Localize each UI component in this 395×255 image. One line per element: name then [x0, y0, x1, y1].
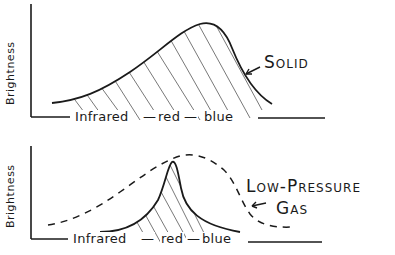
solid-x-label-infrared: Infrared: [74, 110, 130, 124]
spectrum-diagram: Brightness Infrared — red — blue Solid B…: [0, 0, 395, 255]
solid-hatching: [60, 18, 272, 120]
gas-y-axis-label: Brightness: [4, 164, 17, 228]
solid-y-axis-label: Brightness: [4, 41, 17, 105]
diagram-drawing: [0, 0, 395, 255]
gas-arrow: [252, 202, 266, 208]
gas-x-label-infrared: Infrared: [72, 232, 128, 246]
solid-x-label-blue: blue: [203, 110, 234, 124]
solid-arrow: [246, 67, 260, 74]
gas-x-label-red: red: [160, 232, 184, 246]
solid-x-label-red: red: [157, 110, 181, 124]
solid-x-sep-2: —: [183, 110, 198, 124]
gas-x-sep-1: —: [140, 232, 155, 246]
solid-x-sep-1: —: [142, 110, 157, 124]
solid-curve-label: Solid: [264, 52, 309, 72]
gas-curve-label-line1: Low-Pressure: [246, 176, 361, 196]
gas-curve-label-line2: Gas: [276, 198, 308, 218]
gas-peak-curve: [100, 162, 240, 232]
gas-x-label-blue: blue: [201, 232, 232, 246]
gas-x-sep-2: —: [186, 232, 201, 246]
